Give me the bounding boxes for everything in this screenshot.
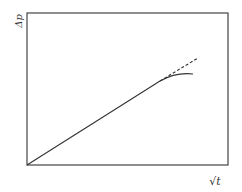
measured-curve (27, 74, 193, 165)
extrapolation-dashed-line (160, 58, 198, 81)
plot-frame (27, 13, 228, 165)
chart: Δp √t (0, 0, 242, 192)
x-axis-label: √t (209, 175, 221, 188)
y-axis-label: Δp (13, 14, 24, 29)
